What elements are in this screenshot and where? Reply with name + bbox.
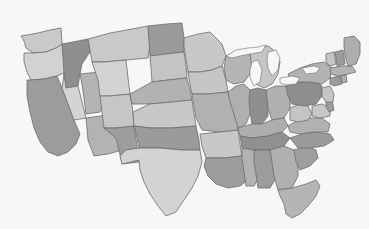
state-ct[interactable]: Connecticut: [330, 76, 342, 86]
state-ok[interactable]: Oklahoma: [134, 126, 200, 150]
state-co[interactable]: Colorado: [100, 94, 134, 128]
state-ri[interactable]: Rhode Island: [341, 75, 347, 83]
us-choropleth-map: WashingtonOregonCaliforniaIdahoNevadaUta…: [0, 0, 369, 229]
state-nh[interactable]: New Hampshire: [335, 50, 345, 66]
state-in[interactable]: Indiana: [249, 88, 268, 124]
state-vt[interactable]: Vermont: [326, 52, 336, 66]
map-canvas: WashingtonOregonCaliforniaIdahoNevadaUta…: [0, 0, 369, 229]
state-sd[interactable]: South Dakota: [150, 52, 187, 82]
state-nd[interactable]: North Dakota: [148, 23, 184, 56]
state-ar[interactable]: Arkansas: [200, 130, 242, 158]
state-wv[interactable]: West Virginia: [290, 104, 312, 122]
